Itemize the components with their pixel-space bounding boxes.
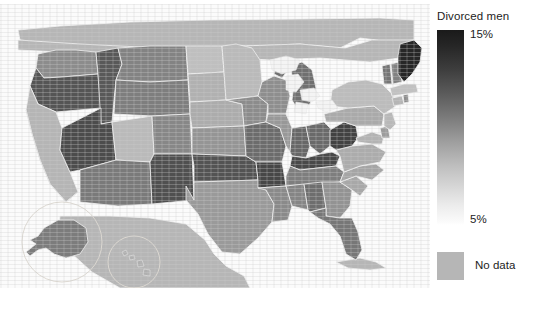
region-WA	[36, 50, 98, 78]
region-CT	[392, 96, 404, 106]
region-RI	[403, 94, 409, 103]
region-OK	[192, 154, 258, 182]
region-WY	[114, 80, 190, 116]
region-AZ	[80, 160, 152, 206]
region-AR	[256, 162, 286, 188]
legend-nodata-label: No data	[475, 259, 515, 271]
legend-min-label: 5%	[470, 213, 487, 225]
region-CO	[152, 114, 192, 154]
region-SD	[188, 72, 226, 102]
region-KS	[192, 126, 246, 156]
region-VT	[382, 64, 392, 84]
choropleth-map-figure: Divorced men 15% 5% No data	[0, 0, 547, 310]
region-NE	[190, 100, 244, 128]
legend-gradient-bar	[437, 30, 464, 225]
map-legend: Divorced men 15% 5% No data	[437, 10, 547, 280]
region-UT	[112, 116, 154, 162]
legend-title: Divorced men	[437, 10, 547, 22]
us-states-map	[0, 4, 430, 288]
region-ND	[186, 46, 224, 74]
map-canvas	[0, 4, 430, 288]
legend-max-label: 15%	[470, 28, 493, 40]
region-MT	[116, 46, 188, 82]
legend-nodata-swatch	[437, 252, 464, 280]
